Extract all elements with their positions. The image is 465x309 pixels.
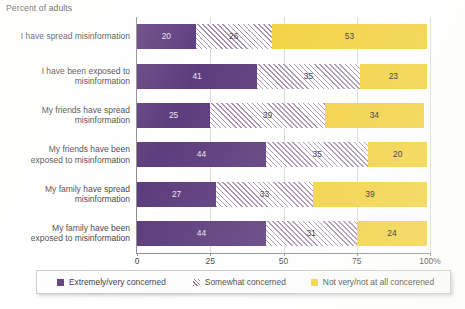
bar-segment-series-2: 39 — [210, 103, 324, 128]
category-label-line: exposed to misinformation — [0, 233, 130, 244]
legend-swatch-icon-series-1 — [57, 279, 64, 286]
bar-segment-series-2: 31 — [266, 221, 357, 246]
category-label: My friends have beenexposed to misinform… — [0, 144, 130, 165]
category-label-line: My friends have been — [0, 144, 130, 155]
bar-value-label: 26 — [229, 32, 238, 40]
bar-value-label: 39 — [365, 190, 374, 198]
bar-segment-series-2: 35 — [257, 64, 360, 89]
category-label: My family have spreadmisinformation — [0, 184, 130, 205]
legend-item-not-very-concerned[interactable]: Not very/not at all concerened — [311, 277, 434, 287]
category-label-line: My family have been — [0, 223, 130, 234]
bar-value-label: 20 — [393, 150, 402, 158]
bar-value-label: 31 — [307, 229, 316, 237]
legend-item-somewhat-concerned[interactable]: Somewhat concerned — [193, 277, 286, 287]
category-label-line: I have spread misinformation — [0, 31, 130, 42]
bar-segment-series-3: 23 — [360, 64, 427, 89]
bar-segment-series-2: 35 — [266, 142, 369, 167]
bar-value-label: 34 — [370, 111, 379, 119]
bar-row: 253934 — [137, 103, 430, 128]
category-label-line: misinformation — [0, 76, 130, 87]
bar-value-label: 20 — [162, 32, 171, 40]
category-label-line: exposed to misinformation — [0, 155, 130, 166]
legend-label-series-2: Somewhat concerned — [205, 277, 286, 287]
bar-value-label: 44 — [197, 150, 206, 158]
bar-value-label: 33 — [260, 190, 269, 198]
category-label-line: My friends have spread — [0, 105, 130, 116]
category-label-line: misinformation — [0, 115, 130, 126]
category-label-line: I have been exposed to — [0, 66, 130, 77]
bar-value-label: 41 — [192, 72, 201, 80]
category-label: I have spread misinformation — [0, 31, 130, 42]
legend-swatch-icon-series-3 — [311, 279, 318, 286]
x-tick-label: 50 — [279, 256, 288, 266]
legend-item-extremely-very-concerned[interactable]: Extremely/very concerned — [57, 277, 166, 287]
plot-area: 202653413523253934443520273339443124 — [137, 17, 430, 253]
bar-segment-series-3: 34 — [325, 103, 425, 128]
category-label: My family have beenexposed to misinforma… — [0, 223, 130, 244]
bar-segment-series-1: 41 — [137, 64, 257, 89]
bar-row: 413523 — [137, 64, 430, 89]
x-tick-label: 0 — [135, 256, 140, 266]
bar-value-label: 53 — [345, 32, 354, 40]
category-label-line: My family have spread — [0, 184, 130, 195]
bar-segment-series-3: 53 — [272, 24, 427, 49]
legend-label-series-1: Extremely/very concerned — [69, 277, 166, 287]
bar-segment-series-1: 20 — [137, 24, 196, 49]
chart-figure: Percent of adults 2026534135232539344435… — [0, 0, 465, 309]
legend-swatch-icon-series-2 — [193, 279, 200, 286]
chart-legend: Extremely/very concerned Somewhat concer… — [36, 270, 451, 294]
bar-value-label: 27 — [172, 190, 181, 198]
bar-value-label: 23 — [389, 72, 398, 80]
bar-segment-series-2: 33 — [216, 182, 313, 207]
x-tick-label: 25 — [206, 256, 215, 266]
bar-row: 443520 — [137, 142, 430, 167]
bar-value-label: 35 — [313, 150, 322, 158]
bar-value-label: 44 — [197, 229, 206, 237]
category-label: I have been exposed tomisinformation — [0, 66, 130, 87]
bar-row: 202653 — [137, 24, 430, 49]
bar-value-label: 39 — [263, 111, 272, 119]
bar-segment-series-3: 39 — [313, 182, 427, 207]
bar-segment-series-1: 44 — [137, 221, 266, 246]
bar-segment-series-1: 44 — [137, 142, 266, 167]
category-label: My friends have spreadmisinformation — [0, 105, 130, 126]
bar-value-label: 24 — [387, 229, 396, 237]
bar-segment-series-3: 20 — [368, 142, 427, 167]
legend-label-series-3: Not very/not at all concerened — [323, 277, 434, 287]
bar-segment-series-1: 27 — [137, 182, 216, 207]
category-label-line: misinformation — [0, 194, 130, 205]
bar-value-label: 25 — [169, 111, 178, 119]
bar-segment-series-1: 25 — [137, 103, 210, 128]
bar-row: 443124 — [137, 221, 430, 246]
bar-rows: 202653413523253934443520273339443124 — [137, 17, 430, 253]
x-tick-label: 75 — [352, 256, 361, 266]
x-tick-label: 100% — [419, 256, 440, 266]
bar-segment-series-3: 24 — [357, 221, 427, 246]
gridline-100 — [430, 17, 431, 253]
bar-row: 273339 — [137, 182, 430, 207]
bar-segment-series-2: 26 — [196, 24, 272, 49]
bar-value-label: 35 — [304, 72, 313, 80]
chart-title: Percent of adults — [6, 3, 72, 13]
